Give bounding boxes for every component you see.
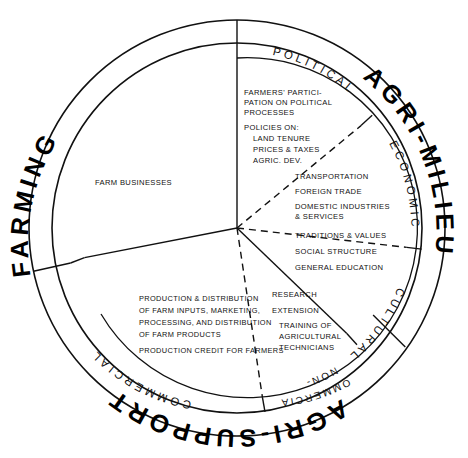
political-item-5: PRICES & TAXES [253, 145, 320, 154]
commercial-item-0: PRODUCTION & DISTRIBUTION [139, 294, 259, 303]
commercial-item-3: OF FARM PRODUCTS [139, 330, 221, 339]
cultural-item-2: GENERAL EDUCATION [295, 263, 383, 272]
political-item-4: LAND TENURE [253, 134, 310, 143]
noncommercial-item-4: TECHNICIANS [279, 343, 334, 352]
political-item-1: PATION ON POLITICAL [244, 98, 332, 107]
political-item-2: PROCESSES [244, 108, 294, 117]
farming-item-0: FARM BUSINESSES [95, 178, 172, 187]
economic-item-3: & SERVICES [295, 212, 344, 221]
subdivider-political-economic [361, 115, 372, 125]
economic-item-1: FOREIGN TRADE [295, 187, 362, 196]
radius-center-lowerleft [85, 228, 238, 258]
political-item-0: FARMERS' PARTICI- [244, 88, 322, 97]
commercial-item-4: PRODUCTION CREDIT FOR FARMERS [139, 346, 284, 355]
cultural-item-1: SOCIAL STRUCTURE [295, 247, 377, 256]
divider-farming-support [34, 263, 71, 271]
noncommercial-item-2: TRAINING OF [279, 321, 332, 330]
noncommercial-item-1: EXTENSION [272, 306, 319, 315]
commercial-item-2: PROCESSING, AND DISTRIBUTION [139, 318, 272, 327]
subdivider-commercial-farming [71, 258, 85, 263]
economic-item-0: TRANSPORTATION [295, 172, 369, 181]
cultural-item-0: TRADITIONS & VALUES [295, 231, 386, 240]
noncommercial-item-3: AGRICULTURAL [279, 332, 341, 341]
noncommercial-item-0: RESEARCH [272, 290, 317, 299]
subdivider-economic-cultural [407, 247, 422, 249]
commercial-item-1: OF FARM INPUTS, MARKETING, [139, 306, 260, 315]
subdivider-noncommercial-commercial [262, 397, 265, 412]
sector-content-farming: FARM BUSINESSES [95, 178, 172, 187]
sector-content-cultural: TRADITIONS & VALUES SOCIAL STRUCTURE GEN… [295, 231, 386, 272]
sector-content-commercial: PRODUCTION & DISTRIBUTION OF FARM INPUTS… [139, 294, 284, 355]
sector-content-political: FARMERS' PARTICI- PATION ON POLITICAL PR… [244, 88, 332, 165]
subband-label-cultural: CULTURAL [346, 286, 407, 364]
sector-content-economic: TRANSPORTATION FOREIGN TRADE DOMESTIC IN… [295, 172, 390, 221]
economic-item-2: DOMESTIC INDUSTRIES [295, 202, 390, 211]
diagram-canvas: FARMING AGRI-MILIEU AGRI-SUPPORT POLITIC… [0, 0, 468, 458]
political-item-3: POLICIES ON: [244, 123, 299, 132]
sector-content-non-commercial: RESEARCH EXTENSION TRAINING OF AGRICULTU… [272, 290, 341, 352]
political-item-6: AGRIC. DEV. [253, 156, 302, 165]
agricultural-system-circle-diagram: FARMING AGRI-MILIEU AGRI-SUPPORT POLITIC… [0, 0, 468, 458]
subdivider-cultural-noncommercial [347, 334, 357, 345]
